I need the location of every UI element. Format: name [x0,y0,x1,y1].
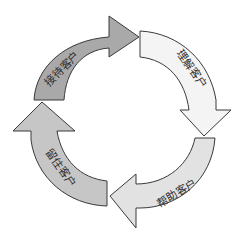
customer-cycle-diagram: 接待客户 理解客户 帮助客户 留住客户 [0,0,242,235]
cycle-step-retain: 留住客户 [13,102,107,206]
cycle-step-help: 帮助客户 [110,138,215,228]
cycle-step-reception: 接待客户 [34,16,139,100]
arrow-understand-icon [140,31,231,136]
arrow-retain-icon [13,102,107,206]
cycle-step-understand: 理解客户 [140,31,231,136]
arrow-help-icon [110,138,215,228]
